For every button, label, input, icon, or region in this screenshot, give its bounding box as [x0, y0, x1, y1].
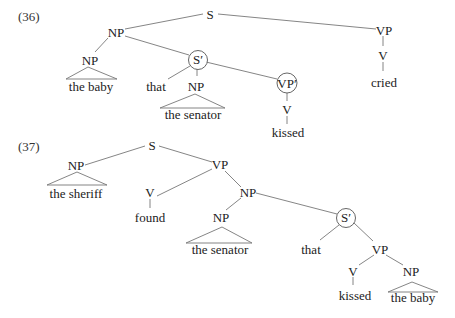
edge-s-vp	[159, 146, 212, 162]
triangle-the-senator	[160, 94, 225, 108]
node-v-found: V	[145, 185, 155, 200]
node-np-baby: NP	[82, 53, 99, 68]
node-np-senator: NP	[188, 79, 205, 94]
edge-np-np	[95, 38, 108, 52]
node-v-cried: V	[378, 48, 388, 63]
node-np-baby: NP	[403, 264, 420, 279]
syntax-tree-diagram: (36) S NP NP the baby S′ that NP the sen…	[0, 0, 455, 318]
tree-36: (36) S NP NP the baby S′ that NP the sen…	[18, 7, 397, 140]
example-number-37: (37)	[18, 139, 40, 154]
leaf-the-baby: the baby	[391, 290, 436, 305]
edge-sbar-vpbar	[206, 62, 277, 79]
node-np-sheriff: NP	[68, 158, 85, 173]
node-sbar: S′	[193, 52, 203, 67]
edge-vp-np	[225, 171, 241, 187]
leaf-that: that	[301, 242, 321, 257]
edge-s-np	[125, 14, 203, 29]
edge-s-vp	[218, 14, 376, 29]
triangle-the-senator	[186, 227, 252, 243]
node-s: S	[206, 7, 213, 22]
node-v-kissed: V	[348, 264, 358, 279]
tree-37: (37) S NP the sheriff VP V found NP NP t…	[18, 138, 438, 305]
edge-np-sbar	[125, 36, 189, 55]
node-vp: VP	[212, 157, 229, 172]
node-np-senator: NP	[213, 210, 230, 225]
leaf-found: found	[135, 210, 166, 225]
node-vpbar: VP′	[277, 76, 297, 91]
leaf-that: that	[146, 79, 166, 94]
node-vp-inner: VP	[372, 242, 389, 257]
triangle-the-baby	[66, 67, 117, 79]
edge-vp-v	[157, 169, 212, 196]
triangle-the-sheriff	[47, 172, 107, 185]
node-s: S	[148, 138, 155, 153]
edge-sbar-vp	[354, 223, 373, 241]
edge-vp-np	[386, 255, 403, 265]
leaf-the-sheriff: the sheriff	[50, 186, 103, 201]
leaf-the-senator: the senator	[165, 107, 222, 122]
node-sbar: S′	[341, 210, 351, 225]
node-np-complex: NP	[240, 185, 257, 200]
node-v-kissed: V	[282, 102, 292, 117]
node-np-top: NP	[108, 25, 125, 40]
leaf-cried: cried	[371, 75, 397, 90]
leaf-kissed: kissed	[272, 125, 305, 140]
edge-sbar-that	[320, 225, 339, 240]
edge-s-np	[85, 146, 145, 165]
example-number-36: (36)	[18, 9, 40, 24]
leaf-the-baby: the baby	[69, 79, 114, 94]
node-vp: VP	[376, 23, 393, 38]
leaf-the-senator: the senator	[192, 242, 249, 257]
edge-sbar-that	[168, 66, 190, 79]
leaf-kissed: kissed	[339, 288, 372, 303]
edge-np-sbar	[256, 193, 337, 214]
